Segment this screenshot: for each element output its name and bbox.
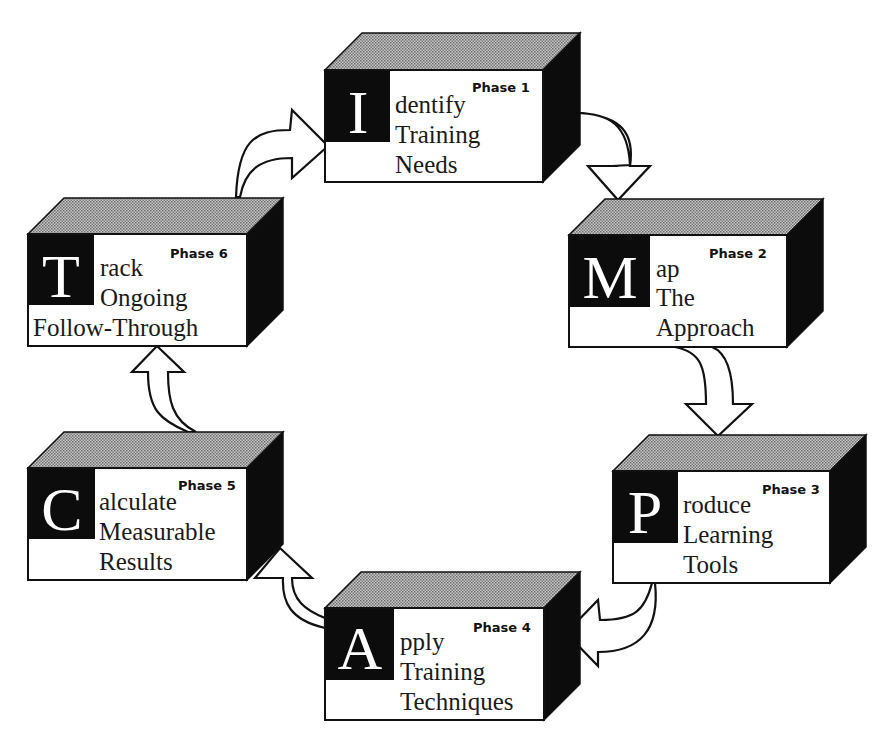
phase-5-line3: Results [99,548,173,575]
phase-5-line2: Measurable [99,518,216,545]
phase-1-label: Phase 1 [472,80,530,95]
phase-2-line3: Approach [656,314,755,341]
arrow-phase2-to-phase3 [675,347,752,436]
phase-5-letter: C [41,475,82,543]
phase-6-line1: rack [100,254,144,281]
phase-3-label: Phase 3 [762,482,820,497]
phase-6-label: Phase 6 [170,246,228,261]
phase-6-line3: Follow-Through [33,314,199,341]
phase-4-label: Phase 4 [473,620,531,635]
phase-2-label: Phase 2 [709,246,767,261]
phase-box-4: A Phase 4 pply Training Techniques [325,572,580,720]
phase-3-line2: Learning [683,521,774,548]
phase-1-line3: Needs [395,151,457,178]
phase-box-1: I Phase 1 dentify Training Needs [325,33,580,182]
arrow-phase6-to-phase1 [236,110,328,197]
phase-4-letter: A [338,614,383,682]
impact-cycle-diagram: I Phase 1 dentify Training Needs M Phase… [0,0,896,755]
arrow-phase5-to-phase6 [132,346,196,432]
phase-5-label: Phase 5 [178,478,236,493]
phase-1-letter: I [348,78,369,146]
phase-4-line2: Training [400,658,486,685]
phase-box-5: C Phase 5 alculate Measurable Results [28,432,283,580]
phase-4-line1: pply [400,628,445,655]
phase-box-3: P Phase 3 roduce Learning Tools [613,435,866,583]
phase-box-2: M Phase 2 ap The Approach [569,199,823,347]
phase-1-line2: Training [395,121,481,148]
phase-3-line3: Tools [683,551,738,578]
phase-2-line2: The [656,284,695,311]
phase-3-line1: roduce [683,491,751,518]
phase-2-line1: ap [656,255,680,282]
phase-1-line1: dentify [395,91,466,118]
phase-6-line2: Ongoing [100,284,188,311]
phase-4-line3: Techniques [400,688,514,715]
phase-6-letter: T [42,242,80,310]
phase-3-letter: P [628,478,662,546]
arrow-phase1-to-phase2 [575,113,650,200]
phase-5-line1: alculate [99,488,177,515]
phase-2-letter: M [582,243,637,311]
phase-box-6: T Phase 6 rack Ongoing Follow-Through [28,198,283,346]
